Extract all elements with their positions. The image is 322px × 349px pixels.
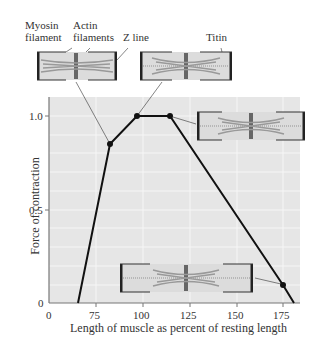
y-tick-1: 1.0 [29,110,43,122]
chart-svg [0,0,322,349]
x-axis-title: Length of muscle as percent of resting l… [70,322,287,334]
label-actin: Actin filaments [73,19,114,43]
x-tick-0: 0 [46,309,52,321]
label-actin-line1: Actin [73,19,114,31]
label-myosin-line2: filament [25,31,62,43]
x-tick-75: 75 [89,309,100,321]
label-actin-line2: filaments [73,31,114,43]
x-tick-125: 125 [180,309,197,321]
x-tick-150: 150 [227,309,244,321]
label-zline: Z line [123,31,149,43]
sarcomere-stretched [197,112,305,140]
sarcomere-contracted [37,52,117,80]
label-myosin-line1: Myosin [25,19,62,31]
y-axis-title: Force of contraction [29,151,41,261]
y-tick-0: 0 [38,297,44,309]
x-tick-100: 100 [133,309,150,321]
sarcomere-optimal [140,52,232,80]
label-myosin: Myosin filament [25,19,62,43]
sarcomere-overstretched [120,264,253,292]
label-titin: Titin [206,31,227,43]
x-tick-175: 175 [273,309,290,321]
